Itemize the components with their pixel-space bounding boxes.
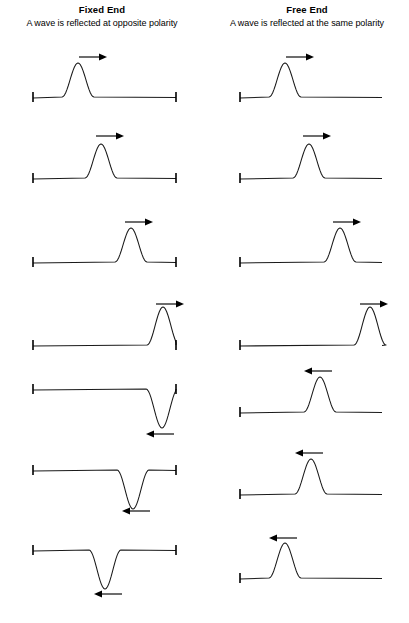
- wave-pulse-trace: [240, 228, 382, 263]
- wave-pulse-trace: [33, 307, 176, 346]
- wave-pulse-trace: [33, 228, 176, 263]
- arrow-head-right-icon: [99, 53, 107, 60]
- wave-pulse-trace: [240, 63, 382, 98]
- wave-frame: [240, 132, 382, 183]
- wave-frame: [33, 545, 176, 598]
- arrow-head-right-icon: [145, 218, 153, 225]
- wave-pulse-trace: [240, 459, 382, 495]
- wave-frame: [240, 53, 382, 102]
- wave-pulse-trace: [33, 470, 176, 509]
- wave-column-fixed: [33, 53, 184, 597]
- wave-pulse-trace: [240, 543, 382, 579]
- wave-pulse-trace: [33, 550, 176, 589]
- arrow-head-left-icon: [94, 590, 102, 597]
- arrow-head-right-icon: [176, 300, 184, 307]
- arrow-head-right-icon: [323, 132, 331, 139]
- wave-pulse-trace: [33, 63, 176, 98]
- wave-frame: [240, 367, 382, 417]
- wave-frame: [240, 300, 388, 350]
- wave-pulse-trace: [240, 144, 382, 179]
- wave-frame: [33, 132, 176, 183]
- wave-frame: [33, 53, 176, 102]
- arrow-head-left-icon: [269, 534, 277, 541]
- wave-frame: [33, 384, 176, 438]
- wave-frame: [240, 218, 382, 267]
- arrow-head-right-icon: [306, 53, 314, 60]
- wave-frame: [33, 218, 176, 267]
- wave-frame: [33, 300, 184, 350]
- wave-pulse-trace: [240, 307, 386, 346]
- arrow-head-left-icon: [122, 507, 130, 514]
- arrow-head-right-icon: [116, 132, 124, 139]
- wave-pulse-trace: [33, 144, 176, 179]
- arrow-head-left-icon: [295, 449, 303, 456]
- wave-frame: [240, 534, 382, 583]
- wave-pulse-trace: [33, 389, 176, 428]
- wave-reflection-figure: Fixed End A wave is reflected at opposit…: [0, 0, 409, 623]
- arrow-head-left-icon: [146, 430, 154, 437]
- wave-sequence-canvas: [0, 0, 409, 623]
- arrow-head-right-icon: [353, 218, 361, 225]
- wave-frame: [240, 449, 382, 499]
- wave-frame: [33, 465, 176, 515]
- wave-pulse-trace: [240, 377, 382, 413]
- arrow-head-left-icon: [304, 367, 312, 374]
- arrow-head-right-icon: [380, 300, 388, 307]
- wave-column-free: [240, 53, 388, 583]
